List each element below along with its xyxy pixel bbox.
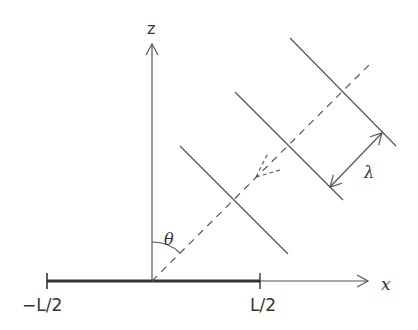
wavefront-1 — [180, 146, 288, 254]
x-axis-label: x — [381, 274, 391, 294]
diagram-canvas: z x −L/2 L/2 θ λ — [0, 0, 418, 330]
aperture — [47, 273, 260, 289]
wavefront-3 — [290, 38, 396, 146]
z-axis-label: z — [147, 19, 155, 38]
angle-label: θ — [164, 230, 174, 249]
aperture-left-label: −L/2 — [22, 295, 62, 315]
propagation-direction-line — [152, 64, 370, 281]
wavelength-label: λ — [363, 163, 374, 182]
wavefront-2 — [235, 92, 343, 200]
wavelength-arrow — [330, 133, 382, 187]
aperture-right-label: L/2 — [250, 295, 276, 315]
